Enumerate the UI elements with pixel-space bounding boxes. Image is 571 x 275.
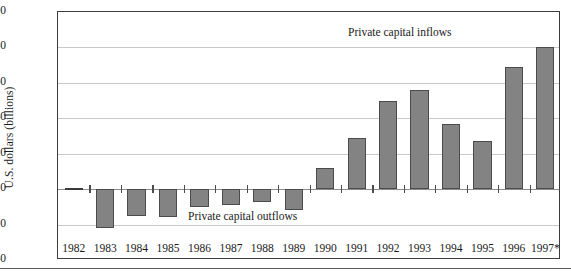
bar: [348, 138, 366, 189]
plot-area: 1982198319841985198619871988198919901991…: [57, 11, 560, 259]
bar: [379, 101, 397, 190]
bar: [285, 189, 303, 210]
bar: [316, 168, 334, 189]
x-axis-tick-mark: [278, 185, 279, 193]
y-axis-tick-label: 100: [0, 5, 6, 16]
y-axis-tick-label: 0: [0, 182, 6, 193]
y-axis-tick-label: 40: [0, 111, 6, 122]
x-axis-tick-mark: [498, 185, 499, 193]
gridline: [58, 47, 559, 48]
x-axis-tick-mark: [247, 185, 248, 193]
y-axis-tick-label: 80: [0, 40, 6, 51]
y-axis-tick-label: 60: [0, 76, 6, 87]
x-axis-tick-mark: [530, 185, 531, 193]
gridline: [58, 83, 559, 84]
bar: [473, 141, 491, 189]
bar: [127, 189, 145, 216]
bar: [96, 189, 114, 228]
x-axis-tick-label: 1997*: [523, 242, 567, 254]
x-axis-tick-mark: [467, 185, 468, 193]
bar: [222, 189, 240, 205]
bar: [410, 90, 428, 189]
bar: [190, 189, 208, 207]
y-axis-tick-label: −40: [0, 253, 6, 264]
x-axis-tick-mark: [435, 185, 436, 193]
annotation-private-capital-inflows: Private capital inflows: [348, 26, 451, 39]
x-axis-tick-mark: [372, 185, 373, 193]
y-axis-tick-label: 20: [0, 147, 6, 158]
bar: [65, 188, 83, 191]
gridline: [58, 118, 559, 119]
bar: [442, 124, 460, 190]
y-axis-tick-label: −20: [0, 218, 6, 229]
annotation-private-capital-outflows: Private capital outflows: [188, 210, 297, 223]
bar: [253, 189, 271, 201]
chart-figure: U.S. dollars (billions) 100806040200−20−…: [0, 0, 571, 275]
x-axis-tick-mark: [89, 185, 90, 193]
bar: [159, 189, 177, 217]
bar: [536, 47, 554, 189]
x-axis-tick-mark: [341, 185, 342, 193]
bottom-rule: [0, 268, 571, 269]
x-axis-tick-mark: [404, 185, 405, 193]
bar: [505, 67, 523, 189]
x-axis-tick-mark: [121, 185, 122, 193]
plot-inner: 1982198319841985198619871988198919901991…: [58, 12, 559, 258]
gridline: [58, 225, 559, 226]
x-axis-tick-mark: [184, 185, 185, 193]
x-axis-tick-mark: [215, 185, 216, 193]
x-axis-tick-mark: [310, 185, 311, 193]
x-axis-tick-mark: [152, 185, 153, 193]
